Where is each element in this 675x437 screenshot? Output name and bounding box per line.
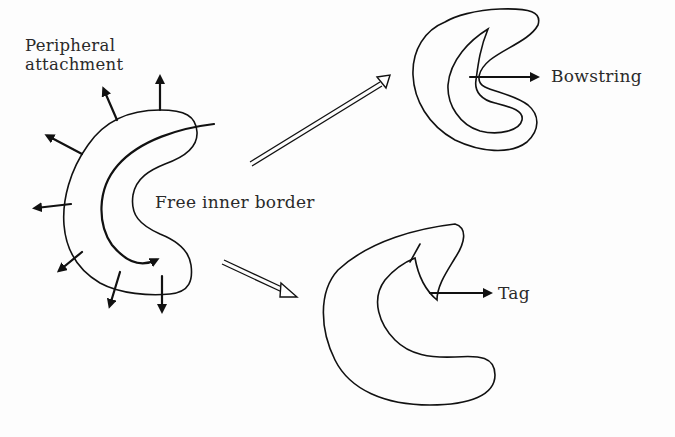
bowstring-crescent	[413, 9, 539, 151]
diagram-canvas: Peripheral attachment Free inner border …	[0, 0, 675, 437]
peripheral-label-line1: Peripheral	[25, 36, 123, 55]
peripheral-label-line2: attachment	[25, 55, 123, 74]
attachment-arrow	[60, 252, 82, 270]
tag-label: Tag	[498, 284, 530, 303]
free-inner-border-label: Free inner border	[155, 193, 315, 212]
attachment-arrow	[104, 90, 117, 120]
peripheral-attachment-label: Peripheral attachment	[25, 36, 123, 74]
transition-arrow-up	[250, 75, 390, 166]
transition-arrow-down	[222, 260, 297, 297]
tag-outer-outline	[323, 224, 495, 405]
bowstring-label: Bowstring	[551, 67, 642, 86]
tag-crescent	[323, 224, 495, 405]
bowstring-inner-outline	[448, 29, 522, 133]
attachment-arrow	[36, 204, 71, 208]
peripheral-attachment-arrows	[36, 78, 162, 310]
attachment-arrow	[48, 136, 82, 154]
